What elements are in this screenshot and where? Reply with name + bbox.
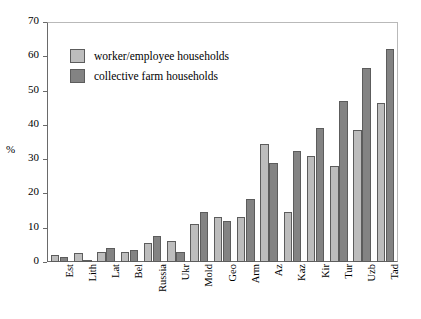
bar bbox=[60, 257, 69, 262]
bar bbox=[51, 255, 60, 262]
y-tick-mark bbox=[43, 193, 47, 194]
bar bbox=[106, 248, 115, 262]
bar bbox=[121, 252, 130, 262]
bar bbox=[153, 236, 162, 262]
y-tick-mark bbox=[43, 159, 47, 160]
bar bbox=[362, 68, 371, 262]
x-tick-label: Arm bbox=[250, 264, 261, 283]
bar bbox=[214, 217, 223, 262]
x-tick-label: Kir bbox=[320, 264, 331, 278]
legend-swatch-icon bbox=[70, 69, 85, 83]
bar bbox=[307, 156, 316, 262]
bar bbox=[316, 128, 325, 262]
bar bbox=[83, 260, 92, 262]
bar bbox=[130, 250, 139, 262]
bar bbox=[269, 163, 278, 262]
bar bbox=[353, 130, 362, 262]
bar-group bbox=[51, 23, 69, 262]
y-tick-label: 0 bbox=[9, 254, 39, 266]
bar-group bbox=[284, 23, 302, 262]
x-tick-label: Est bbox=[64, 264, 75, 277]
y-tick-label: 50 bbox=[9, 83, 39, 95]
bar-group bbox=[353, 23, 371, 262]
bar bbox=[293, 151, 302, 262]
y-tick-mark bbox=[43, 56, 47, 57]
x-tick-label: Geo bbox=[227, 264, 238, 282]
legend-item-worker-employee: worker/employee households bbox=[70, 48, 280, 63]
x-tick-label: Russia bbox=[157, 264, 168, 292]
legend-swatch-icon bbox=[70, 49, 85, 63]
bar bbox=[200, 212, 209, 262]
y-tick-label: 30 bbox=[9, 151, 39, 163]
x-tick-label: Lith bbox=[87, 264, 98, 282]
bar bbox=[246, 199, 255, 262]
bar bbox=[377, 103, 386, 262]
bar-group bbox=[377, 23, 395, 262]
bar bbox=[167, 241, 176, 262]
y-tick-label: 70 bbox=[9, 14, 39, 26]
bar bbox=[190, 224, 199, 262]
bar-group bbox=[330, 23, 348, 262]
y-tick-label: 40 bbox=[9, 117, 39, 129]
x-tick-label: Uzb bbox=[366, 264, 377, 282]
y-tick-mark bbox=[43, 262, 47, 263]
bar bbox=[144, 243, 153, 262]
legend-label: collective farm households bbox=[94, 70, 218, 82]
bar bbox=[330, 166, 339, 262]
y-tick-mark bbox=[43, 228, 47, 229]
legend-label: worker/employee households bbox=[94, 50, 229, 62]
bar bbox=[260, 144, 269, 262]
y-tick-mark bbox=[43, 22, 47, 23]
bar bbox=[176, 252, 185, 262]
bar bbox=[74, 253, 83, 262]
y-tick-mark bbox=[43, 91, 47, 92]
x-axis-labels: EstLithLatBelRussiaUkrMoldGeoArmAzKazKir… bbox=[48, 264, 397, 319]
x-tick-label: Mold bbox=[203, 264, 214, 287]
y-tick-label: 60 bbox=[9, 48, 39, 60]
x-tick-label: Lat bbox=[110, 264, 121, 278]
y-tick-label: 10 bbox=[9, 220, 39, 232]
x-tick-label: Kaz bbox=[296, 264, 307, 281]
y-tick-mark bbox=[43, 125, 47, 126]
bar bbox=[284, 212, 293, 262]
x-tick-label: Bel bbox=[133, 264, 144, 279]
bar bbox=[223, 221, 232, 262]
y-tick-label: 20 bbox=[9, 185, 39, 197]
bar bbox=[237, 217, 246, 262]
bar bbox=[97, 252, 106, 262]
bar-group bbox=[307, 23, 325, 262]
bar bbox=[339, 101, 348, 262]
x-tick-label: Tad bbox=[389, 264, 400, 280]
x-tick-label: Az bbox=[273, 264, 284, 276]
legend-item-collective-farm: collective farm households bbox=[70, 68, 280, 83]
bar bbox=[386, 49, 395, 262]
x-tick-label: Tur bbox=[343, 264, 354, 279]
chart-legend: worker/employee households collective fa… bbox=[70, 48, 280, 88]
x-tick-label: Ukr bbox=[180, 264, 191, 280]
bar-chart: % 010203040506070 EstLithLatBelRussiaUkr… bbox=[0, 0, 421, 319]
